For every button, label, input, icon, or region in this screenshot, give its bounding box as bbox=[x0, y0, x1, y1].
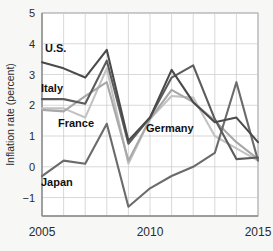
x-tick-label-2005: 2005 bbox=[29, 225, 56, 239]
x-tick-label-2015: 2015 bbox=[245, 225, 272, 239]
inflation-rate-line-chart: −1012345200520102015Inflation rate (perc… bbox=[0, 0, 273, 251]
x-axis-ticks: 200520102015 bbox=[29, 225, 272, 239]
y-axis-title: Inflation rate (percent) bbox=[4, 63, 16, 166]
series-label-france: France bbox=[58, 117, 94, 129]
y-tick-label-1: 1 bbox=[29, 130, 35, 142]
x-tick-label-2010: 2010 bbox=[137, 225, 164, 239]
y-tick-label-4: 4 bbox=[29, 38, 35, 50]
y-tick-label-5: 5 bbox=[29, 7, 35, 19]
chart-canvas: −1012345200520102015Inflation rate (perc… bbox=[0, 0, 273, 251]
series-label-italy: Italy bbox=[41, 82, 64, 94]
y-tick-label-0: 0 bbox=[29, 161, 35, 173]
series-label-japan: Japan bbox=[41, 176, 73, 188]
series-label-us: U.S. bbox=[45, 42, 66, 54]
y-tick-label--1: −1 bbox=[22, 192, 35, 204]
y-axis-ticks: −1012345 bbox=[22, 7, 35, 204]
y-tick-label-3: 3 bbox=[29, 69, 35, 81]
series-label-germany: Germany bbox=[146, 122, 195, 134]
y-tick-label-2: 2 bbox=[29, 99, 35, 111]
